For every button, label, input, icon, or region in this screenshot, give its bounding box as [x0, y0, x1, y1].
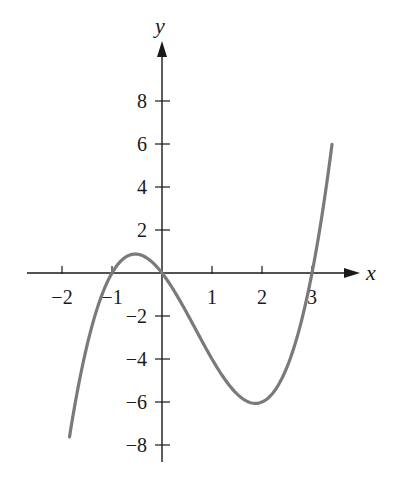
x-tick-label: 2 [257, 286, 267, 308]
y-axis-arrow-icon [157, 41, 167, 57]
cubic-function-chart: −2−11238642−2−4−6−8 x y [0, 0, 412, 487]
x-tick-label: −2 [51, 286, 72, 308]
y-tick-label: −8 [126, 434, 147, 456]
y-tick-label: 8 [137, 90, 147, 112]
y-tick-label: 4 [137, 176, 147, 198]
y-tick-label: −6 [126, 391, 147, 413]
x-axis-arrow-icon [344, 268, 360, 278]
x-axis-label: x [365, 260, 376, 285]
y-tick-label: −4 [126, 348, 147, 370]
y-tick-label: 2 [137, 219, 147, 241]
y-tick-label: 6 [137, 133, 147, 155]
y-axis-label: y [153, 13, 165, 38]
y-tick-label: −2 [126, 305, 147, 327]
x-tick-label: 1 [207, 286, 217, 308]
